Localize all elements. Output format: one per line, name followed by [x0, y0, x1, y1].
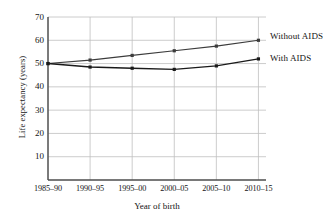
data-point-marker — [173, 49, 176, 52]
series-label-with-aids: With AIDS — [270, 53, 311, 63]
data-point-marker — [88, 58, 91, 61]
x-axis-tick-labels: 1985–901990–951995–002000–052005–102010–… — [0, 184, 320, 198]
y-tick-label: 20 — [20, 129, 44, 138]
data-point-marker — [173, 68, 176, 71]
series-line-without-aids — [48, 40, 258, 63]
grid-lines — [48, 17, 266, 180]
data-point-marker — [257, 39, 260, 42]
data-point-marker — [131, 54, 134, 57]
y-tick-label: 60 — [20, 36, 44, 45]
data-point-marker — [257, 57, 260, 60]
y-tick-label: 10 — [20, 152, 44, 161]
data-point-marker — [215, 64, 218, 67]
series-label-without-aids: Without AIDS — [270, 31, 323, 41]
data-point-marker — [131, 67, 134, 70]
y-tick-label: 70 — [20, 13, 44, 22]
data-point-marker — [46, 62, 49, 65]
y-tick-label: 40 — [20, 82, 44, 91]
y-tick-label: 30 — [20, 106, 44, 115]
y-tick-label: 50 — [20, 59, 44, 68]
plot-area — [48, 17, 266, 180]
series-lines — [48, 40, 258, 69]
data-point-marker — [88, 65, 91, 68]
plot-svg — [48, 17, 266, 180]
x-tick-label: 2010–15 — [230, 184, 286, 194]
axis-lines — [48, 17, 266, 180]
x-axis-title: Year of birth — [48, 201, 266, 212]
data-point-marker — [215, 45, 218, 48]
